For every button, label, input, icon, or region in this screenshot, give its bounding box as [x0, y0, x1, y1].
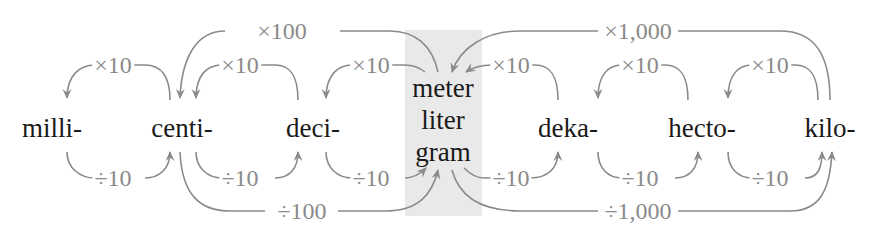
label-times-10: ×10 — [749, 53, 791, 77]
unit-deka: deka- — [538, 115, 598, 142]
unit-deci: deci- — [286, 115, 340, 142]
label-div-10: ÷10 — [92, 166, 133, 190]
unit-kilo: kilo- — [805, 115, 856, 142]
unit-liter: liter — [421, 107, 464, 134]
label-times-100: ×100 — [255, 19, 309, 43]
label-times-10: ×10 — [350, 53, 392, 77]
label-div-10: ÷10 — [490, 166, 531, 190]
label-times-10: ×10 — [219, 53, 261, 77]
label-div-100: ÷100 — [275, 199, 328, 223]
label-times-1000: ×1,000 — [602, 19, 674, 43]
unit-hecto: hecto- — [668, 115, 735, 142]
unit-centi: centi- — [151, 115, 212, 142]
label-div-10: ÷10 — [219, 166, 260, 190]
unit-milli: milli- — [22, 115, 82, 142]
label-div-10: ÷10 — [350, 166, 391, 190]
label-div-1000: ÷1,000 — [602, 199, 673, 223]
unit-gram: gram — [415, 139, 470, 166]
metric-prefix-conversion-diagram: milli- centi- deci- meter liter gram dek… — [0, 0, 879, 233]
unit-meter: meter — [412, 75, 473, 102]
label-times-10: ×10 — [92, 53, 134, 77]
label-times-10: ×10 — [619, 53, 661, 77]
label-div-10: ÷10 — [619, 166, 660, 190]
label-div-10: ÷10 — [749, 166, 790, 190]
label-times-10: ×10 — [490, 53, 532, 77]
